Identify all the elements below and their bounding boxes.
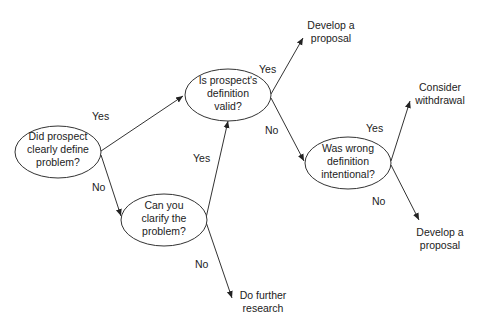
edge-label-no: No bbox=[372, 195, 386, 207]
outcome-text-line: Develop a bbox=[416, 226, 463, 238]
edge-n3-yes-n2 bbox=[206, 121, 228, 218]
node-text-line: problem? bbox=[142, 225, 186, 237]
outcome-consider-withdrawal: Consider withdrawal bbox=[414, 81, 465, 106]
node-text-line: Can you bbox=[144, 199, 183, 211]
outcome-text-line: Develop a bbox=[307, 19, 354, 31]
outcome-do-further-research: Do further research bbox=[240, 289, 287, 314]
node-text-line: intentional? bbox=[321, 168, 375, 180]
edge-n4-no-o3 bbox=[391, 165, 419, 220]
decision-node-clarify-problem: Can you clarify the problem? bbox=[121, 194, 207, 246]
edge-label-no: No bbox=[92, 181, 106, 193]
edge-n3-no-o4 bbox=[206, 222, 232, 298]
edge-label-yes: Yes bbox=[92, 110, 109, 122]
node-text-line: definition bbox=[207, 87, 249, 99]
decision-node-definition-valid: Is prospect's definition valid? bbox=[185, 69, 271, 121]
edge-label-no: No bbox=[265, 124, 279, 136]
node-text-line: valid? bbox=[214, 100, 242, 112]
edge-n1-yes-n2 bbox=[101, 96, 183, 151]
edge-label-no: No bbox=[195, 258, 209, 270]
outcome-develop-proposal-bottom: Develop a proposal bbox=[416, 226, 463, 251]
node-text-line: Was wrong bbox=[322, 142, 374, 154]
node-text-line: clearly define bbox=[27, 143, 89, 155]
node-text-line: Is prospect's bbox=[199, 74, 258, 86]
edge-label-yes: Yes bbox=[366, 122, 383, 134]
decision-node-wrong-intentional: Was wrong definition intentional? bbox=[305, 137, 391, 189]
outcome-text-line: proposal bbox=[311, 32, 351, 44]
edge-label-yes: Yes bbox=[259, 63, 276, 75]
node-text-line: problem? bbox=[36, 156, 80, 168]
outcome-text-line: withdrawal bbox=[414, 94, 465, 106]
outcome-develop-proposal-top: Develop a proposal bbox=[307, 19, 354, 44]
edge-label-yes: Yes bbox=[193, 152, 210, 164]
node-text-line: definition bbox=[327, 155, 369, 167]
edge-n4-yes-o2 bbox=[391, 101, 410, 161]
node-text-line: clarify the bbox=[142, 212, 187, 224]
node-text-line: Did prospect bbox=[29, 130, 88, 142]
outcome-text-line: research bbox=[243, 302, 284, 314]
decision-node-define-problem: Did prospect clearly define problem? bbox=[15, 126, 101, 178]
outcome-text-line: Consider bbox=[419, 81, 462, 93]
outcome-text-line: proposal bbox=[420, 239, 460, 251]
decision-tree-diagram: Did prospect clearly define problem? Is … bbox=[0, 0, 482, 327]
outcome-text-line: Do further bbox=[240, 289, 287, 301]
